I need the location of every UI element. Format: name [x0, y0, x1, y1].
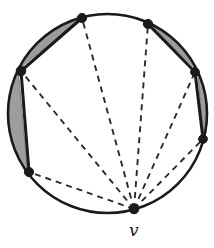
vertex-point: [129, 204, 139, 214]
vertex-label-v: v: [129, 222, 139, 239]
vertex-point: [24, 167, 33, 176]
vertex-point: [143, 19, 152, 28]
figure-canvas: v: [0, 0, 214, 248]
solid-edge: [148, 24, 195, 72]
vertex-point: [77, 13, 86, 22]
diagram-svg: [0, 0, 214, 248]
dashed-chord: [134, 72, 195, 209]
vertex-point: [191, 68, 200, 77]
dashed-chord: [134, 24, 148, 209]
vertex-point: [199, 135, 208, 144]
vertex-point: [16, 66, 26, 76]
dashed-chord: [134, 139, 203, 209]
solid-edge: [21, 18, 82, 71]
dashed-chord: [82, 18, 134, 209]
